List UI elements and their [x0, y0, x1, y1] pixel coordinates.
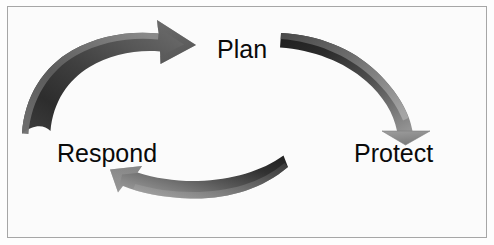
node-label-protect: Protect [354, 141, 433, 166]
arrow-body [280, 33, 428, 138]
node-label-plan: Plan [217, 37, 267, 62]
node-label-respond: Respond [57, 141, 157, 166]
arrow-plan-to-protect [280, 33, 430, 145]
arrow-respond-to-plan [22, 20, 196, 134]
diagram-canvas: Plan Protect Respond [0, 0, 494, 245]
